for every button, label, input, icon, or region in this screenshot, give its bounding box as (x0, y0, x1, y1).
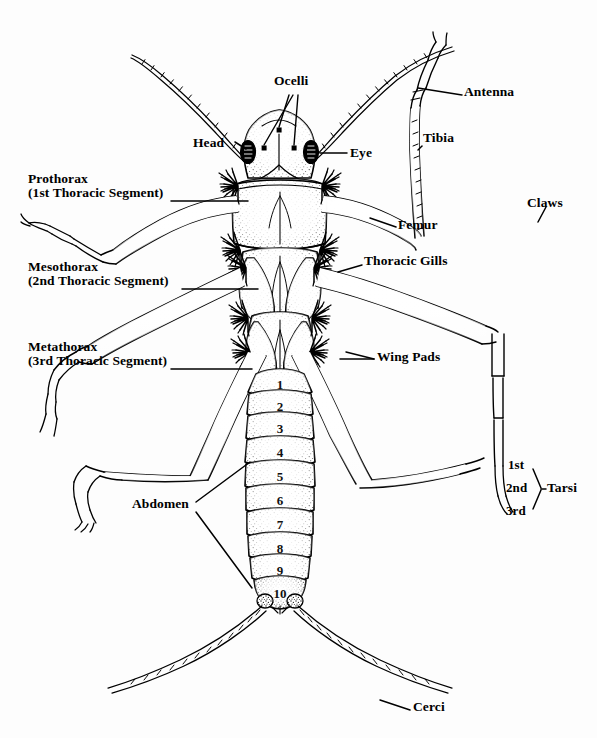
abdomen-segment-number: 7 (269, 517, 291, 533)
label-mesothorax-line1: Mesothorax (28, 260, 169, 274)
label-wing-pads: Wing Pads (377, 350, 440, 364)
label-claws: Claws (527, 196, 563, 210)
anatomy-figure: Ocelli Head Eye Antenna Tibia Femur Claw… (0, 0, 597, 738)
label-metathorax-line1: Metathorax (28, 340, 167, 354)
label-eye: Eye (350, 146, 372, 160)
abdomen-segment-number: 4 (269, 445, 291, 461)
abdomen-segment-number: 6 (269, 493, 291, 509)
label-ocelli: Ocelli (274, 74, 308, 88)
prothorax (233, 179, 327, 250)
label-tarsus-2nd: 2nd (506, 481, 527, 495)
label-prothorax: Prothorax (1st Thoracic Segment) (28, 172, 163, 200)
label-tibia: Tibia (423, 131, 454, 145)
label-thoracic-gills: Thoracic Gills (364, 254, 448, 268)
label-prothorax-line2: (1st Thoracic Segment) (28, 186, 163, 200)
abdomen-segment-number: 1 (269, 377, 291, 393)
abdomen-segment-number: 8 (269, 541, 291, 557)
label-tarsus-1st: 1st (508, 458, 524, 472)
label-femur: Femur (398, 218, 437, 232)
abdomen-segment-number: 2 (269, 399, 291, 415)
label-metathorax: Metathorax (3rd Thoracic Segment) (28, 340, 167, 368)
label-metathorax-line2: (3rd Thoracic Segment) (28, 354, 167, 368)
compound-eye-right (304, 141, 319, 164)
label-prothorax-line1: Prothorax (28, 172, 163, 186)
abdomen-segment-number: 9 (269, 563, 291, 579)
stonefly-nymph-illustration (0, 0, 597, 738)
abdomen-segment-number: 10 (269, 586, 291, 602)
label-head: Head (193, 136, 224, 150)
label-cerci: Cerci (413, 700, 445, 714)
compound-eye-left (241, 141, 256, 164)
label-tarsi: Tarsi (547, 481, 577, 495)
label-abdomen: Abdomen (132, 497, 189, 511)
label-antenna: Antenna (464, 85, 514, 99)
label-mesothorax-line2: (2nd Thoracic Segment) (28, 274, 169, 288)
abdomen-segment-number: 5 (269, 469, 291, 485)
label-mesothorax: Mesothorax (2nd Thoracic Segment) (28, 260, 169, 288)
label-tarsus-3rd: 3rd (506, 504, 526, 518)
abdomen-segment-number: 3 (269, 421, 291, 437)
